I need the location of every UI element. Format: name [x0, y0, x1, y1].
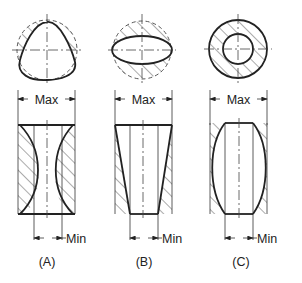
- max-dimension-c: Max: [210, 90, 267, 125]
- max-dimension-b: Max: [115, 90, 172, 125]
- min-dimension-a: Min: [34, 232, 86, 246]
- max-label-b: Max: [132, 93, 156, 107]
- section-view-c: [210, 118, 267, 240]
- max-label-a: Max: [35, 93, 59, 107]
- caption-b: (B): [136, 255, 153, 269]
- section-view-a: [18, 120, 75, 240]
- max-label-c: Max: [227, 93, 251, 107]
- plan-view-b: [108, 14, 176, 86]
- min-label-c: Min: [257, 232, 277, 246]
- min-dimension-b: Min: [130, 232, 182, 246]
- min-label-b: Min: [162, 232, 182, 246]
- section-view-b: [115, 120, 172, 240]
- panel-c: Max Min (C): [204, 14, 277, 269]
- caption-a: (A): [39, 255, 56, 269]
- min-label-a: Min: [66, 232, 86, 246]
- plan-view-a: [12, 14, 82, 86]
- panel-b: Max Min (B): [108, 14, 182, 269]
- caption-c: (C): [232, 255, 249, 269]
- plan-view-c: [204, 14, 272, 86]
- panel-a: Max Min (A): [12, 14, 86, 269]
- max-dimension-a: Max: [18, 90, 75, 125]
- min-dimension-c: Min: [225, 232, 277, 246]
- diagram-canvas: Max Min (A): [0, 0, 302, 283]
